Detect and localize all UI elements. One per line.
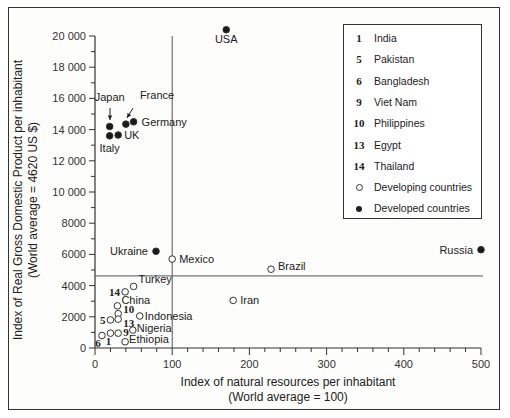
label-pakistan: 5 (100, 314, 106, 326)
y-tick-label: 14 000 (52, 124, 86, 136)
legend: 1India5Pakistan6Bangladesh9Viet Nam10Phi… (343, 24, 482, 219)
svg-text:Index of Real Gross Domestic P: Index of Real Gross Domestic Product per… (11, 59, 25, 340)
legend-item-philippines: 10Philippines (344, 113, 425, 133)
label-indonesia: Indonesia (145, 310, 194, 322)
legend-key-number: 13 (344, 139, 374, 151)
x-axis-title: Index of natural resources per inhabitan… (181, 375, 396, 389)
point-viet-nam[interactable] (115, 330, 122, 337)
label-uk: UK (124, 129, 140, 141)
label-thailand: 14 (109, 286, 121, 298)
legend-text: Viet Nam (374, 96, 417, 108)
legend-key-number: 1 (344, 32, 374, 44)
x-tick-label: 200 (240, 358, 258, 370)
point-brazil[interactable] (268, 266, 275, 273)
y-tick-label: 2000 (62, 311, 86, 323)
legend-text: Developing countries (374, 181, 472, 193)
point-japan[interactable] (106, 123, 113, 130)
label-japan: Japan (95, 91, 125, 103)
y-axis-title: Index of Real Gross Domestic Product per… (11, 59, 40, 340)
legend-item-egypt: 13Egypt (344, 135, 401, 155)
legend-text: Thailand (374, 160, 414, 172)
point-ukraine[interactable] (153, 248, 160, 255)
legend-key-number: 14 (344, 160, 374, 172)
label-germany: Germany (142, 116, 188, 128)
label-bangladesh: 6 (95, 337, 101, 349)
label-iran: Iran (240, 294, 259, 306)
legend-item-bangladesh: 6Bangladesh (344, 71, 429, 91)
point-mexico[interactable] (169, 256, 176, 263)
y-tick-label: 10 000 (52, 186, 86, 198)
point-ethiopia[interactable] (122, 338, 129, 345)
legend-item-developed-countries: Developed countries (344, 198, 470, 218)
label-philippines: 10 (123, 303, 135, 315)
point-china[interactable] (114, 303, 121, 310)
label-italy: Italy (100, 142, 121, 154)
point-indonesia[interactable] (136, 313, 143, 320)
label-brazil: Brazil (278, 260, 306, 272)
label-russia: Russia (439, 244, 474, 256)
label-turkey: Turkey (139, 273, 173, 285)
legend-text: Bangladesh (374, 75, 429, 87)
legend-key-number: 9 (344, 96, 374, 108)
legend-key-number: 6 (344, 75, 374, 87)
x-tick-label: 400 (395, 358, 413, 370)
label-ukraine: Ukraine (110, 245, 148, 257)
legend-item-developing-countries: Developing countries (344, 177, 472, 197)
x-tick-label: 100 (163, 358, 181, 370)
y-tick-label: 18 000 (52, 61, 86, 73)
x-axis-title-sub: (World average = 100) (228, 390, 348, 404)
label-usa: USA (215, 33, 238, 45)
legend-item-viet-nam: 9Viet Nam (344, 92, 417, 112)
legend-item-india: 1India (344, 28, 397, 48)
point-italy[interactable] (106, 133, 113, 140)
open-circle-icon (356, 184, 363, 191)
y-tick-label: 0 (80, 342, 86, 354)
point-turkey[interactable] (130, 283, 137, 290)
legend-key-number: 10 (344, 117, 374, 129)
legend-item-pakistan: 5Pakistan (344, 49, 414, 69)
point-russia[interactable] (478, 246, 485, 253)
y-tick-label: 6000 (62, 248, 86, 260)
label-mexico: Mexico (179, 253, 214, 265)
x-tick-label: 0 (92, 358, 98, 370)
point-pakistan[interactable] (107, 317, 114, 324)
filled-circle-icon (356, 206, 362, 212)
point-iran[interactable] (230, 297, 237, 304)
label-india: 1 (106, 335, 112, 347)
y-tick-label: 4000 (62, 280, 86, 292)
x-tick-label: 300 (317, 358, 335, 370)
legend-item-thailand: 14Thailand (344, 156, 414, 176)
legend-key-number: 5 (344, 53, 374, 65)
y-tick-label: 8000 (62, 217, 86, 229)
legend-text: Developed countries (374, 202, 470, 214)
legend-text: Philippines (374, 117, 425, 129)
y-tick-label: 20 000 (52, 30, 86, 42)
label-ethiopia: Ethiopia (129, 333, 170, 345)
point-germany[interactable] (130, 119, 137, 126)
point-france[interactable] (123, 121, 130, 128)
y-tick-label: 12 000 (52, 155, 86, 167)
svg-text:(World average = 4620 US $): (World average = 4620 US $) (26, 122, 40, 278)
label-france: France (140, 89, 174, 101)
x-tick-label: 500 (472, 358, 490, 370)
legend-text: India (374, 32, 397, 44)
point-uk[interactable] (115, 132, 122, 139)
legend-text: Pakistan (374, 53, 414, 65)
y-tick-label: 16 000 (52, 92, 86, 104)
point-egypt[interactable] (115, 316, 122, 323)
legend-text: Egypt (374, 139, 401, 151)
